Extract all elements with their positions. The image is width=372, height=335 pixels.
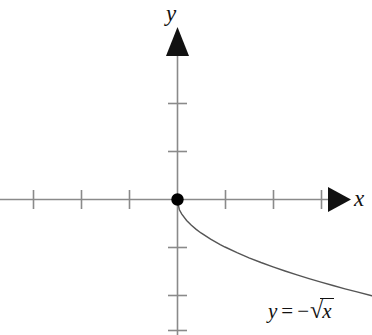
- graph-canvas: [0, 0, 372, 335]
- radicand: x: [320, 298, 333, 322]
- x-axis-arrowhead-icon: [328, 187, 351, 212]
- equation-lhs: y: [268, 301, 277, 322]
- y-axis-arrowhead-icon: [166, 27, 189, 56]
- origin-point-marker: [171, 193, 183, 205]
- graph-figure: y x y = − √ x: [0, 0, 372, 335]
- equation-minus-sign: −: [297, 301, 309, 322]
- equation-label: y = − √ x: [268, 298, 334, 322]
- radical-group: √ x: [310, 298, 334, 322]
- equation-operator: =: [281, 301, 293, 322]
- x-axis-label: x: [354, 187, 364, 210]
- sqrt-curve: [177, 199, 372, 296]
- y-axis-label: y: [166, 2, 176, 25]
